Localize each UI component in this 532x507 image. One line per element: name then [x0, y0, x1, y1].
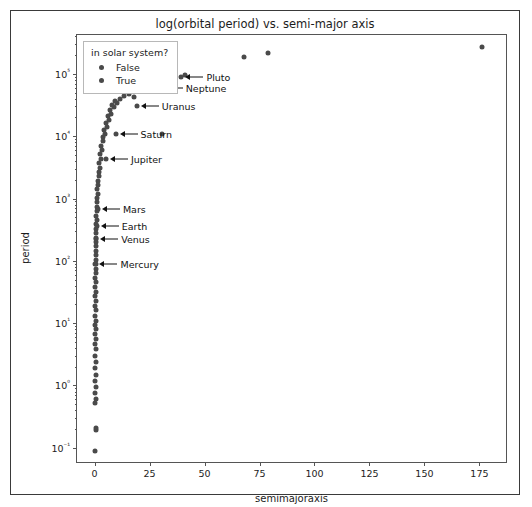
data-point — [97, 161, 102, 166]
legend-marker-icon — [99, 78, 104, 83]
y-tick-mark — [73, 136, 77, 137]
data-point — [93, 391, 98, 396]
y-tick-minor — [75, 205, 77, 206]
data-point — [93, 298, 98, 303]
annotation-label: Pluto — [206, 71, 230, 82]
data-point — [93, 327, 98, 332]
annotation-label: Mars — [123, 203, 146, 214]
y-tick-minor — [75, 326, 77, 327]
x-tick-label: 25 — [144, 468, 156, 479]
x-tick-label: 0 — [92, 468, 98, 479]
y-tick-minor — [75, 36, 77, 37]
data-point — [96, 169, 101, 174]
data-point — [95, 178, 100, 183]
legend-entry[interactable]: False — [91, 61, 168, 74]
data-point — [93, 308, 98, 313]
data-point — [95, 206, 100, 211]
annotation-label: Jupiter — [131, 153, 162, 164]
y-tick-minor — [75, 342, 77, 343]
data-point — [266, 51, 271, 56]
y-tick-minor — [75, 142, 77, 143]
legend-box[interactable]: in solar system? FalseTrue — [83, 41, 178, 94]
y-tick-minor — [75, 429, 77, 430]
data-point — [95, 200, 100, 205]
y-tick-minor — [75, 201, 77, 202]
legend-title: in solar system? — [91, 47, 168, 58]
y-tick-minor — [75, 77, 77, 78]
data-point — [93, 448, 98, 453]
data-point — [95, 187, 100, 192]
legend-marker-icon — [99, 65, 104, 70]
y-tick-minor — [75, 337, 77, 338]
annotation-label: Saturn — [141, 129, 172, 140]
y-tick-minor — [75, 293, 77, 294]
data-point — [93, 253, 98, 258]
x-tick-label: 100 — [305, 468, 323, 479]
legend-entry-label: True — [116, 75, 136, 86]
y-tick-minor — [75, 150, 77, 151]
data-point — [132, 94, 137, 99]
y-tick-minor — [75, 280, 77, 281]
data-point — [93, 384, 98, 389]
legend-entries: FalseTrue — [91, 61, 168, 87]
annotation-label: Neptune — [186, 82, 227, 93]
y-tick-minor — [75, 217, 77, 218]
data-point — [93, 271, 98, 276]
y-tick-minor — [75, 348, 77, 349]
data-point — [93, 353, 98, 358]
y-tick-minor — [75, 418, 77, 419]
data-point — [134, 103, 139, 108]
x-axis-title: semimajoraxis — [76, 493, 507, 504]
y-tick-minor — [75, 304, 77, 305]
data-point — [93, 336, 98, 341]
y-tick-minor — [75, 388, 77, 389]
data-point — [113, 132, 118, 137]
data-point — [93, 266, 98, 271]
annotation-label: Venus — [121, 233, 150, 244]
y-tick-label: 10⁻¹ — [51, 442, 70, 454]
data-point — [94, 217, 99, 222]
y-tick-minor — [75, 329, 77, 330]
data-point — [93, 289, 98, 294]
x-tick-mark — [150, 462, 151, 466]
data-point — [101, 139, 106, 144]
y-tick-minor — [75, 212, 77, 213]
y-tick-minor — [75, 270, 77, 271]
y-tick-minor — [75, 161, 77, 162]
data-point — [93, 372, 98, 377]
y-tick-minor — [75, 106, 77, 107]
chart-title: log(orbital period) vs. semi-major axis — [11, 17, 519, 31]
annotation-leader-line — [103, 264, 117, 265]
data-point — [100, 148, 105, 153]
scatter-canvas: PlutoNeptuneUranusSaturnJupiterMarsEarth… — [77, 35, 506, 462]
data-point — [93, 314, 98, 319]
data-point — [104, 156, 109, 161]
data-point — [99, 143, 104, 148]
y-tick-minor — [75, 180, 77, 181]
annotation-leader-line — [145, 105, 159, 106]
data-point — [93, 248, 98, 253]
data-point — [94, 244, 99, 249]
data-point — [93, 285, 98, 290]
data-point — [93, 342, 98, 347]
data-point — [93, 280, 98, 285]
legend-entry[interactable]: True — [91, 74, 168, 87]
y-tick-minor — [75, 80, 77, 81]
data-point — [94, 223, 99, 228]
data-point — [98, 152, 103, 157]
annotation-label: Mercury — [120, 259, 159, 270]
y-tick-label: 10³ — [55, 192, 70, 204]
plot-axes: PlutoNeptuneUranusSaturnJupiterMarsEarth… — [76, 34, 507, 463]
data-point — [93, 331, 98, 336]
data-point — [93, 318, 98, 323]
annotation-label: Earth — [122, 220, 147, 231]
y-tick-minor — [75, 286, 77, 287]
data-point — [93, 425, 98, 430]
data-point — [93, 347, 98, 352]
y-tick-minor — [75, 139, 77, 140]
x-tick-label: 125 — [360, 468, 378, 479]
x-tick-mark — [95, 462, 96, 466]
data-point — [93, 294, 98, 299]
data-point — [93, 366, 98, 371]
data-point — [93, 276, 98, 281]
